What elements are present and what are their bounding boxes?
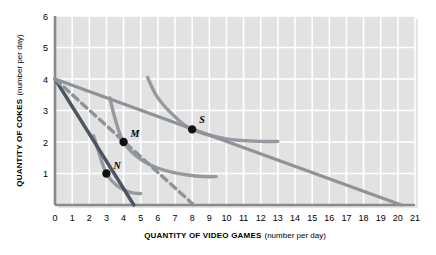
point-label-n: N xyxy=(112,160,121,171)
x-tick-label: 21 xyxy=(410,213,420,223)
x-tick-label: 2 xyxy=(87,213,92,223)
chart-figure: 0123456789101112131415161718192021123456… xyxy=(0,0,436,255)
point-label-s: S xyxy=(199,114,205,125)
x-tick-label: 6 xyxy=(155,213,160,223)
y-axis-title-sub: (number per day) xyxy=(15,34,24,96)
x-tick-label: 18 xyxy=(359,213,369,223)
x-tick-label: 5 xyxy=(138,213,143,223)
x-tick-label: 11 xyxy=(239,213,248,223)
y-tick-label: 4 xyxy=(43,75,48,85)
x-tick-label: 14 xyxy=(290,213,300,223)
x-tick-label: 9 xyxy=(207,213,212,223)
y-axis-title: QUANTITY OF COKES(number per day) xyxy=(15,34,24,187)
y-tick-label: 5 xyxy=(43,43,48,53)
x-tick-label: 4 xyxy=(121,213,126,223)
x-tick-label: 7 xyxy=(172,213,177,223)
x-tick-label: 3 xyxy=(104,213,109,223)
x-tick-label: 0 xyxy=(52,213,57,223)
x-tick-label: 20 xyxy=(393,213,403,223)
indifference-curve-chart: 0123456789101112131415161718192021123456… xyxy=(0,0,436,255)
x-tick-label: 15 xyxy=(307,213,317,223)
data-point-m xyxy=(119,138,127,146)
x-tick-label: 1 xyxy=(70,213,75,223)
x-axis-title: QUANTITY OF VIDEO GAMES(number per day) xyxy=(144,231,326,240)
data-point-n xyxy=(102,169,110,177)
point-label-m: M xyxy=(130,128,141,139)
x-axis-title-sub: (number per day) xyxy=(265,231,327,240)
x-tick-label: 13 xyxy=(273,213,283,223)
y-axis-title-main: QUANTITY OF COKES xyxy=(15,98,24,187)
x-tick-label: 10 xyxy=(221,213,231,223)
x-tick-label: 16 xyxy=(324,213,334,223)
x-tick-label: 17 xyxy=(341,213,351,223)
x-tick-label: 19 xyxy=(376,213,386,223)
x-tick-label: 8 xyxy=(190,213,195,223)
y-tick-label: 3 xyxy=(43,106,48,116)
data-point-s xyxy=(188,125,196,133)
x-axis-title-main: QUANTITY OF VIDEO GAMES xyxy=(144,231,262,240)
x-tick-label: 12 xyxy=(256,213,266,223)
y-tick-label: 2 xyxy=(43,138,48,148)
y-tick-label: 6 xyxy=(43,12,48,22)
y-tick-label: 1 xyxy=(43,169,48,179)
